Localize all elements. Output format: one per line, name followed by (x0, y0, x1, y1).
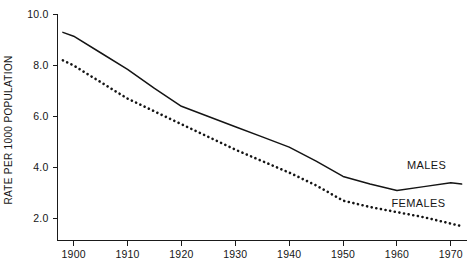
x-axis-ticks (74, 241, 451, 246)
x-tick-label-1960: 1960 (385, 248, 409, 260)
y-axis-tick-labels: 2.04.06.08.010.0 (27, 8, 48, 224)
line-chart: 2.04.06.08.010.0 19001910192019301940195… (0, 0, 469, 265)
x-tick-label-1920: 1920 (169, 248, 193, 260)
chart-page: 2.04.06.08.010.0 19001910192019301940195… (0, 0, 469, 265)
x-tick-label-1900: 1900 (62, 248, 86, 260)
series-label-males: MALES (407, 159, 446, 171)
series-line-males (63, 32, 462, 190)
x-tick-label-1930: 1930 (223, 248, 247, 260)
y-tick-label-4.0: 4.0 (33, 161, 48, 173)
y-tick-label-2.0: 2.0 (33, 212, 48, 224)
x-axis-tick-labels: 19001910192019301940195019601970 (62, 248, 463, 260)
y-axis-title: RATE PER 1000 POPULATION (3, 55, 14, 204)
x-tick-label-1970: 1970 (439, 248, 463, 260)
x-tick-label-1910: 1910 (115, 248, 139, 260)
series-label-females: FEMALES (391, 197, 445, 209)
x-tick-label-1940: 1940 (277, 248, 301, 260)
y-axis-ticks (53, 15, 58, 219)
y-tick-label-8.0: 8.0 (33, 59, 48, 71)
x-tick-label-1950: 1950 (331, 248, 355, 260)
y-tick-label-10.0: 10.0 (27, 8, 48, 20)
y-tick-label-6.0: 6.0 (33, 110, 48, 122)
plot-axes: 2.04.06.08.010.0 19001910192019301940195… (27, 8, 467, 259)
